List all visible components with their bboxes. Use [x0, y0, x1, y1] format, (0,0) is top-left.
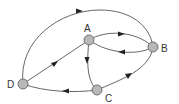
- edge-b-a: [89, 40, 153, 52]
- arrow-d-a: [51, 61, 58, 67]
- node-a: [84, 35, 94, 45]
- arrow-b-a: [118, 50, 125, 55]
- edge-c-d: [23, 84, 97, 92]
- node-d: [18, 79, 28, 89]
- arrow-c-b: [125, 73, 132, 79]
- arrow-a-b: [118, 32, 125, 37]
- arrow-a-c: [85, 57, 90, 64]
- node-label-a: A: [84, 23, 91, 34]
- graph-diagram: A B C D: [0, 0, 179, 104]
- node-label-b: B: [161, 43, 168, 54]
- node-b: [148, 42, 158, 52]
- arrow-c-d: [62, 89, 69, 94]
- edge-a-c: [88, 40, 97, 90]
- node-label-d: D: [7, 79, 14, 90]
- node-label-c: C: [105, 93, 112, 104]
- node-c: [92, 85, 102, 95]
